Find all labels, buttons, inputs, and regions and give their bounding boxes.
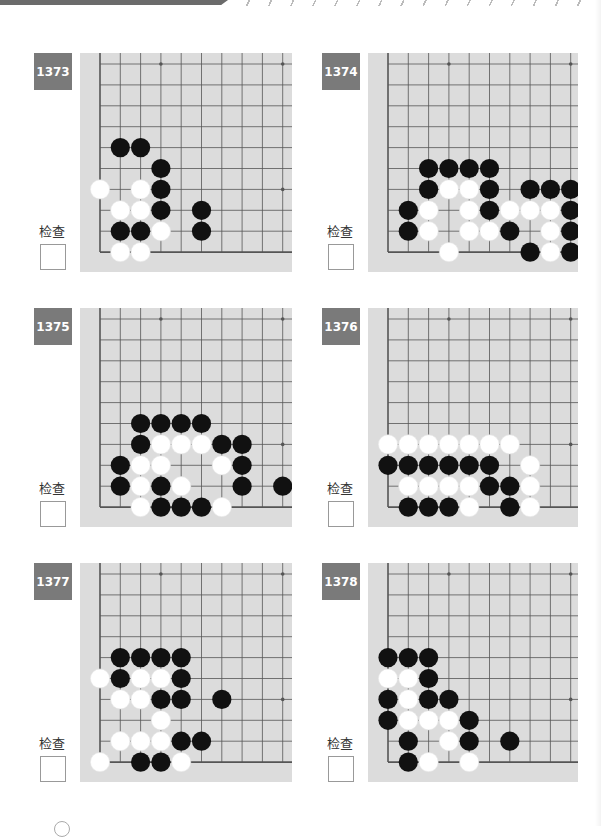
black-stone[interactable] <box>131 222 150 241</box>
black-stone[interactable] <box>151 180 170 199</box>
white-stone[interactable] <box>90 669 109 688</box>
black-stone[interactable] <box>378 456 397 475</box>
white-stone[interactable] <box>500 435 519 454</box>
black-stone[interactable] <box>233 477 252 496</box>
check-checkbox[interactable] <box>328 244 354 270</box>
white-stone[interactable] <box>111 732 130 751</box>
black-stone[interactable] <box>378 648 397 667</box>
white-stone[interactable] <box>439 732 458 751</box>
white-stone[interactable] <box>439 477 458 496</box>
black-stone[interactable] <box>172 498 191 517</box>
check-checkbox[interactable] <box>40 244 66 270</box>
white-stone[interactable] <box>460 435 479 454</box>
black-stone[interactable] <box>172 690 191 709</box>
black-stone[interactable] <box>151 690 170 709</box>
black-stone[interactable] <box>111 669 130 688</box>
white-stone[interactable] <box>131 456 150 475</box>
check-checkbox[interactable] <box>328 756 354 782</box>
black-stone[interactable] <box>192 498 211 517</box>
black-stone[interactable] <box>212 690 231 709</box>
black-stone[interactable] <box>561 222 578 241</box>
white-stone[interactable] <box>460 180 479 199</box>
black-stone[interactable] <box>419 648 438 667</box>
black-stone[interactable] <box>192 201 211 220</box>
white-stone[interactable] <box>111 243 130 262</box>
black-stone[interactable] <box>111 477 130 496</box>
white-stone[interactable] <box>131 180 150 199</box>
black-stone[interactable] <box>151 498 170 517</box>
white-stone[interactable] <box>460 477 479 496</box>
black-stone[interactable] <box>419 159 438 178</box>
white-stone[interactable] <box>521 456 540 475</box>
white-stone[interactable] <box>439 180 458 199</box>
white-stone[interactable] <box>399 711 418 730</box>
black-stone[interactable] <box>460 456 479 475</box>
black-stone[interactable] <box>151 477 170 496</box>
white-stone[interactable] <box>151 711 170 730</box>
black-stone[interactable] <box>521 243 540 262</box>
white-stone[interactable] <box>460 498 479 517</box>
black-stone[interactable] <box>521 180 540 199</box>
white-stone[interactable] <box>131 243 150 262</box>
white-stone[interactable] <box>151 456 170 475</box>
black-stone[interactable] <box>172 669 191 688</box>
black-stone[interactable] <box>151 201 170 220</box>
black-stone[interactable] <box>131 138 150 157</box>
white-stone[interactable] <box>521 498 540 517</box>
white-stone[interactable] <box>172 477 191 496</box>
white-stone[interactable] <box>419 201 438 220</box>
white-stone[interactable] <box>419 435 438 454</box>
black-stone[interactable] <box>439 456 458 475</box>
black-stone[interactable] <box>419 690 438 709</box>
black-stone[interactable] <box>419 498 438 517</box>
black-stone[interactable] <box>192 222 211 241</box>
white-stone[interactable] <box>151 435 170 454</box>
white-stone[interactable] <box>541 201 560 220</box>
white-stone[interactable] <box>131 690 150 709</box>
black-stone[interactable] <box>172 414 191 433</box>
black-stone[interactable] <box>480 477 499 496</box>
black-stone[interactable] <box>399 498 418 517</box>
white-stone[interactable] <box>111 201 130 220</box>
black-stone[interactable] <box>460 159 479 178</box>
white-stone[interactable] <box>399 690 418 709</box>
white-stone[interactable] <box>172 435 191 454</box>
black-stone[interactable] <box>151 159 170 178</box>
white-stone[interactable] <box>439 243 458 262</box>
white-stone[interactable] <box>131 669 150 688</box>
black-stone[interactable] <box>131 753 150 772</box>
white-stone[interactable] <box>131 201 150 220</box>
black-stone[interactable] <box>419 669 438 688</box>
black-stone[interactable] <box>500 477 519 496</box>
white-stone[interactable] <box>192 435 211 454</box>
check-checkbox[interactable] <box>40 756 66 782</box>
white-stone[interactable] <box>131 477 150 496</box>
white-stone[interactable] <box>131 498 150 517</box>
white-stone[interactable] <box>378 435 397 454</box>
black-stone[interactable] <box>378 690 397 709</box>
black-stone[interactable] <box>439 159 458 178</box>
white-stone[interactable] <box>151 222 170 241</box>
black-stone[interactable] <box>151 753 170 772</box>
black-stone[interactable] <box>439 690 458 709</box>
white-stone[interactable] <box>541 222 560 241</box>
black-stone[interactable] <box>273 477 292 496</box>
check-checkbox[interactable] <box>40 501 66 527</box>
white-stone[interactable] <box>500 201 519 220</box>
white-stone[interactable] <box>460 753 479 772</box>
black-stone[interactable] <box>561 201 578 220</box>
white-stone[interactable] <box>172 753 191 772</box>
white-stone[interactable] <box>419 477 438 496</box>
white-stone[interactable] <box>419 222 438 241</box>
black-stone[interactable] <box>500 498 519 517</box>
white-stone[interactable] <box>151 732 170 751</box>
black-stone[interactable] <box>500 222 519 241</box>
black-stone[interactable] <box>399 456 418 475</box>
black-stone[interactable] <box>541 180 560 199</box>
black-stone[interactable] <box>131 435 150 454</box>
black-stone[interactable] <box>192 414 211 433</box>
black-stone[interactable] <box>111 222 130 241</box>
black-stone[interactable] <box>399 648 418 667</box>
white-stone[interactable] <box>460 201 479 220</box>
black-stone[interactable] <box>561 243 578 262</box>
